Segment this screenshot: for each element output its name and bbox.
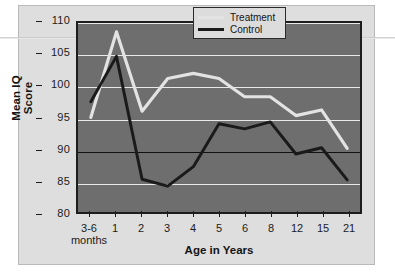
legend-item-treatment: Treatment <box>198 11 281 23</box>
x-tick-mark-8 <box>297 211 298 217</box>
x-tick-mark-3 <box>167 211 168 217</box>
y-tick-mark-105 <box>36 53 42 54</box>
legend-label-control: Control <box>230 24 262 35</box>
y-tick-mark-110 <box>36 21 42 22</box>
legend-swatch-control <box>198 28 224 31</box>
x-axis-title: Age in Years <box>76 244 362 256</box>
x-tick-mark-9 <box>323 211 324 217</box>
y-tick-label-85: 85 <box>57 176 70 187</box>
series-lines <box>78 23 360 212</box>
chart-figure: Mean IQ Score 11010510095908580 3-6month… <box>0 0 395 278</box>
x-tick-label-10: 21 <box>327 222 371 234</box>
x-tick-mark-0 <box>89 211 90 217</box>
y-tick-label-110: 110 <box>52 15 70 26</box>
x-tick-mark-7 <box>271 211 272 217</box>
y-tick-mark-85 <box>36 182 42 183</box>
plot-area <box>76 21 362 214</box>
legend-label-treatment: Treatment <box>230 12 275 23</box>
y-axis-tick-labels: 11010510095908580 <box>42 0 70 278</box>
y-tick-label-100: 100 <box>51 79 70 90</box>
y-tick-mark-90 <box>36 150 42 151</box>
legend-item-control: Control <box>198 23 281 35</box>
y-tick-mark-100 <box>36 85 42 86</box>
legend-swatch-treatment <box>198 16 224 19</box>
x-tick-mark-5 <box>219 211 220 217</box>
x-tick-mark-4 <box>193 211 194 217</box>
y-tick-label-80: 80 <box>57 208 70 219</box>
y-axis-title: Mean IQ Score <box>10 58 34 138</box>
y-tick-mark-95 <box>36 118 42 119</box>
x-tick-mark-1 <box>115 211 116 217</box>
y-tick-mark-80 <box>36 214 42 215</box>
x-tick-mark-10 <box>349 211 350 217</box>
x-tick-mark-2 <box>141 211 142 217</box>
y-tick-label-90: 90 <box>57 144 70 155</box>
y-tick-label-95: 95 <box>57 112 70 123</box>
y-tick-label-105: 105 <box>51 47 70 58</box>
chart-legend: Treatment Control <box>193 7 286 39</box>
x-tick-mark-6 <box>245 211 246 217</box>
plot-inner <box>78 23 360 212</box>
series-line-treatment <box>91 32 347 149</box>
